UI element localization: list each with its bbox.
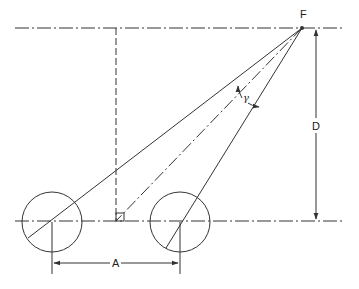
focus-point [300, 26, 304, 30]
spacing-label: A [112, 257, 120, 269]
focus-to-center-line [116, 28, 302, 221]
focus-to-right-line [166, 28, 302, 248]
angle-label: γ [243, 92, 249, 103]
focus-to-left-line [28, 28, 302, 238]
focus-label: F [300, 8, 307, 20]
geometry-diagram: F D A γ [0, 0, 359, 289]
distance-label: D [312, 120, 320, 132]
